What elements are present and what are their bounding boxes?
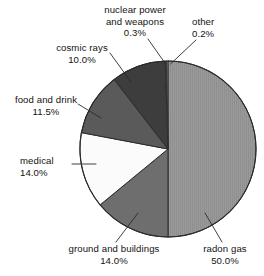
pie-label-ground-and-buildings-percent: 14.0% bbox=[52, 255, 176, 267]
pie-label-radon-gas-name: radon gas bbox=[190, 243, 260, 255]
pie-label-other: other 0.2% bbox=[192, 16, 244, 39]
pie-label-radon-gas: radon gas 50.0% bbox=[190, 243, 260, 266]
pie-slice-radon-gas bbox=[168, 61, 256, 237]
pie-label-nuclear-line2: and weapons bbox=[86, 16, 184, 28]
pie-label-nuclear-line1: nuclear power bbox=[86, 4, 184, 16]
pie-label-other-name: other bbox=[192, 16, 244, 28]
pie-label-other-percent: 0.2% bbox=[192, 28, 244, 40]
pie-label-medical-name: medical bbox=[20, 155, 90, 167]
pie-label-cosmic-rays: cosmic rays 10.0% bbox=[36, 42, 128, 65]
pie-label-nuclear-percent: 0.3% bbox=[86, 27, 184, 39]
pie-label-cosmic-rays-name: cosmic rays bbox=[36, 42, 128, 54]
pie-label-radon-gas-percent: 50.0% bbox=[190, 255, 260, 267]
pie-label-ground-and-buildings-name: ground and buildings bbox=[52, 243, 176, 255]
leader-line-nuclear bbox=[148, 39, 166, 64]
pie-label-food-and-drink-percent: 11.5% bbox=[2, 106, 90, 118]
pie-slices bbox=[80, 61, 256, 237]
pie-label-medical-percent: 14.0% bbox=[20, 167, 90, 179]
pie-label-food-and-drink-name: food and drink bbox=[2, 94, 90, 106]
pie-label-ground-and-buildings: ground and buildings 14.0% bbox=[52, 243, 176, 266]
pie-label-cosmic-rays-percent: 10.0% bbox=[36, 54, 128, 66]
pie-label-nuclear-power-and-weapons: nuclear power and weapons 0.3% bbox=[86, 4, 184, 39]
leader-line-other bbox=[171, 40, 197, 64]
pie-label-food-and-drink: food and drink 11.5% bbox=[2, 94, 90, 117]
pie-label-medical: medical 14.0% bbox=[20, 155, 90, 178]
pie-chart: nuclear power and weapons 0.3% other 0.2… bbox=[0, 0, 264, 276]
